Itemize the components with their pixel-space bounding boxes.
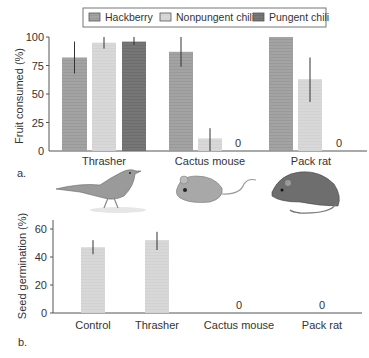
cactus-mouse-illustration — [176, 176, 256, 203]
bar-control — [81, 247, 105, 313]
bar-cactus-mouse-hackberry — [169, 52, 193, 151]
legend-swatch-nonpungent — [160, 13, 171, 21]
y-ticks-b: 60 40 20 0 — [35, 223, 53, 319]
x-label-pack-rat-b: Pack rat — [302, 319, 342, 331]
panel-label-a: a. — [17, 167, 26, 179]
svg-text:0: 0 — [38, 145, 44, 157]
figure: Hackberry Nonpungent chili Pungent chili… — [0, 0, 369, 358]
chart-a: Fruit consumed (%) 100 75 50 25 0 0 0 Th… — [13, 31, 367, 179]
legend-label-hackberry: Hackberry — [105, 11, 154, 23]
pack-rat-illustration — [272, 172, 339, 213]
svg-text:40: 40 — [35, 251, 47, 263]
x-label-cactus-mouse-b: Cactus mouse — [204, 319, 274, 331]
svg-text:100: 100 — [26, 31, 44, 43]
x-label-thrasher-b: Thrasher — [135, 319, 179, 331]
y-axis-label-b: Seed germination (%) — [16, 213, 28, 319]
y-axis-label-a: Fruit consumed (%) — [13, 48, 25, 144]
svg-text:50: 50 — [32, 88, 44, 100]
y-ticks-a: 100 75 50 25 0 — [26, 31, 49, 157]
zero-label-pack-rat-pungent: 0 — [336, 137, 342, 149]
bar-thrasher-pungent — [122, 42, 146, 151]
zero-label-cactus-mouse-pungent: 0 — [235, 137, 241, 149]
bar-thrasher-germination — [145, 240, 169, 313]
legend-swatch-hackberry — [89, 13, 100, 21]
x-label-cactus-mouse: Cactus mouse — [175, 155, 245, 167]
x-label-control: Control — [75, 319, 110, 331]
svg-text:75: 75 — [32, 60, 44, 72]
thrasher-bird-illustration — [56, 170, 146, 213]
x-label-pack-rat: Pack rat — [291, 155, 331, 167]
svg-text:60: 60 — [35, 223, 47, 235]
legend-swatch-pungent — [253, 13, 264, 21]
zero-label-pack-rat: 0 — [319, 299, 325, 311]
svg-text:0: 0 — [41, 307, 47, 319]
zero-label-cactus-mouse: 0 — [236, 299, 242, 311]
x-label-thrasher: Thrasher — [82, 155, 126, 167]
bar-thrasher-nonpungent — [92, 43, 116, 151]
bar-pack-rat-hackberry — [269, 37, 293, 151]
svg-text:25: 25 — [32, 117, 44, 129]
legend-label-nonpungent: Nonpungent chili — [176, 11, 254, 23]
legend: Hackberry Nonpungent chili Pungent chili — [83, 8, 329, 27]
panel-label-b: b. — [18, 336, 27, 348]
chart-b: Seed germination (%) 60 40 20 0 0 0 Cont… — [16, 213, 362, 348]
legend-label-pungent: Pungent chili — [269, 11, 329, 23]
svg-text:20: 20 — [35, 279, 47, 291]
